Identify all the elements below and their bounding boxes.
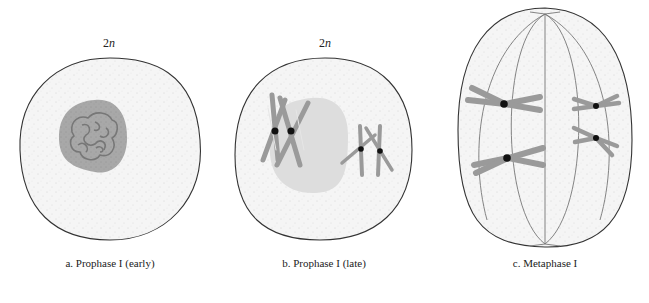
- nucleus: [59, 100, 127, 173]
- centromere: [593, 103, 599, 109]
- panel-a-cell: [20, 58, 200, 240]
- caption-prophase-early: a. Prophase I (early): [10, 257, 210, 269]
- centromere: [358, 146, 364, 152]
- ploidy-label-b: 2n: [305, 36, 345, 51]
- centromere: [503, 154, 511, 162]
- centromere: [377, 148, 383, 154]
- ploidy-letter: n: [109, 36, 115, 50]
- caption-metaphase: c. Metaphase I: [445, 257, 645, 269]
- centromere: [500, 100, 508, 108]
- ploidy-letter: n: [325, 36, 331, 50]
- centromere: [593, 135, 599, 141]
- panel-c-cell: [458, 8, 632, 247]
- centromere: [288, 128, 295, 135]
- caption-prophase-late: b. Prophase I (late): [224, 257, 424, 269]
- centromere: [272, 128, 279, 135]
- ploidy-label-a: 2n: [89, 36, 129, 51]
- panel-b-cell: [235, 58, 412, 240]
